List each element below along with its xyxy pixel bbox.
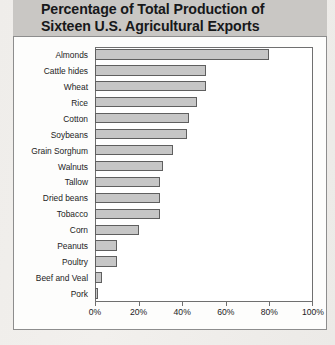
bar <box>95 240 117 250</box>
bar-row <box>95 222 313 238</box>
category-label: Soybeans <box>14 130 88 140</box>
bar <box>95 256 117 266</box>
category-label: Rice <box>14 98 88 108</box>
bar-row <box>95 190 313 206</box>
bar-row <box>95 286 313 302</box>
bar <box>95 49 269 59</box>
category-label: Walnuts <box>14 162 88 172</box>
category-label: Tallow <box>14 177 88 187</box>
category-label: Cotton <box>14 114 88 124</box>
scanned-page-background: Percentage of Total Production of Sixtee… <box>0 0 335 345</box>
bar <box>95 145 173 155</box>
bar <box>95 193 160 203</box>
bar-row <box>95 47 313 63</box>
axis-tick <box>312 302 313 306</box>
bar-row <box>95 159 313 175</box>
bar <box>95 272 102 282</box>
chart-panel: AlmondsCattle hidesWheatRiceCottonSoybea… <box>13 36 327 330</box>
category-axis-labels: AlmondsCattle hidesWheatRiceCottonSoybea… <box>14 47 92 302</box>
bar-row <box>95 254 313 270</box>
axis-tick <box>269 302 270 306</box>
bar-row <box>95 238 313 254</box>
category-label: Grain Sorghum <box>14 146 88 156</box>
bar <box>95 209 160 219</box>
bar-row <box>95 127 313 143</box>
axis-tick-label: 20% <box>130 307 147 317</box>
axis-tick <box>95 302 96 306</box>
axis-tick-label: 40% <box>174 307 191 317</box>
value-axis: 0%20%40%60%80%100% <box>95 302 313 326</box>
category-label: Almonds <box>14 50 88 60</box>
bar-row <box>95 111 313 127</box>
axis-tick-label: 100% <box>302 307 324 317</box>
bar-row <box>95 143 313 159</box>
bar-row <box>95 270 313 286</box>
page-title: Percentage of Total Production of Sixtee… <box>41 1 331 35</box>
axis-tick <box>139 302 140 306</box>
category-label: Tobacco <box>14 209 88 219</box>
category-label: Beef and Veal <box>14 273 88 283</box>
bar <box>95 177 160 187</box>
category-label: Poultry <box>14 257 88 267</box>
bar <box>95 288 98 298</box>
category-label: Peanuts <box>14 241 88 251</box>
bar <box>95 225 139 235</box>
category-label: Corn <box>14 225 88 235</box>
bar-row <box>95 175 313 191</box>
bar <box>95 129 187 139</box>
bar-row <box>95 95 313 111</box>
category-label: Cattle hides <box>14 66 88 76</box>
axis-tick <box>182 302 183 306</box>
bar <box>95 113 189 123</box>
bar-row <box>95 206 313 222</box>
axis-tick-label: 80% <box>261 307 278 317</box>
axis-tick-label: 60% <box>217 307 234 317</box>
axis-tick <box>226 302 227 306</box>
bar <box>95 81 206 91</box>
category-label: Dried beans <box>14 193 88 203</box>
bar <box>95 65 206 75</box>
category-label: Wheat <box>14 82 88 92</box>
bar-row <box>95 79 313 95</box>
bar-row <box>95 63 313 79</box>
axis-tick-label: 0% <box>89 307 101 317</box>
bar <box>95 161 163 171</box>
bar <box>95 97 197 107</box>
chart-header-band: Percentage of Total Production of Sixtee… <box>13 0 327 36</box>
bar-series <box>95 47 313 302</box>
category-label: Pork <box>14 289 88 299</box>
